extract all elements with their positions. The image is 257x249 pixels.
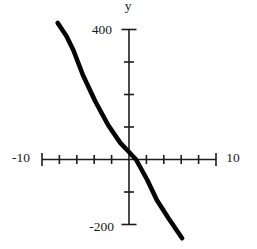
x-min-tick-label: -10: [12, 150, 30, 165]
curve-layer: [58, 23, 182, 238]
y-max-tick-label: 400: [92, 22, 113, 37]
y-axis-title: y: [125, 0, 132, 13]
y-min-tick-label: -200: [89, 219, 114, 234]
line-series: [58, 23, 182, 238]
graph-figure: y 400 -200 -10 10: [0, 0, 257, 249]
axes-layer: [42, 30, 216, 225]
x-max-tick-label: 10: [226, 150, 240, 165]
graph-canvas: y 400 -200 -10 10: [0, 0, 257, 249]
